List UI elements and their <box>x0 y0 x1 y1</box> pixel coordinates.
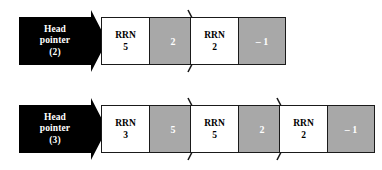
head-pointer-block: Head pointer (3) <box>19 105 107 153</box>
node-rrn-value: 5 <box>123 41 128 53</box>
node-data-cell: RRN 2 <box>191 18 238 64</box>
head-pointer-block: Head pointer (2) <box>19 17 107 65</box>
node-rrn-value: 3 <box>123 129 128 141</box>
node-field-label: RRN <box>115 117 136 129</box>
head-pointer-label: Head pointer (2) <box>19 17 91 65</box>
head-pointer-line3: (3) <box>49 135 60 147</box>
linked-list-diagram: Head pointer (2) RRN 5 2 RRN 2 <box>0 0 382 170</box>
node-body: RRN 2 – 1 <box>279 105 375 153</box>
node-link-cell: – 1 <box>327 106 374 152</box>
node-data-cell: RRN 5 <box>102 18 149 64</box>
node-field-label: RRN <box>204 117 225 129</box>
head-pointer-line2: pointer <box>40 123 70 135</box>
head-pointer-label: Head pointer (3) <box>19 105 91 153</box>
node-link-cell: – 1 <box>238 18 285 64</box>
node-data-cell: RRN 5 <box>191 106 238 152</box>
node-data-cell: RRN 3 <box>102 106 149 152</box>
node-field-label: RRN <box>204 29 225 41</box>
node-rrn-value: 2 <box>212 41 217 53</box>
node-body: RRN 2 – 1 <box>190 17 286 65</box>
head-pointer-line2: pointer <box>40 35 70 47</box>
list-row: Head pointer (3) RRN 3 5 <box>0 98 382 160</box>
node-field-label: RRN <box>293 117 314 129</box>
list-row: Head pointer (2) RRN 5 2 RRN 2 <box>0 10 382 72</box>
node-rrn-value: 2 <box>301 129 306 141</box>
node-rrn-value: 5 <box>212 129 217 141</box>
head-pointer-line1: Head <box>44 112 66 124</box>
head-pointer-line1: Head <box>44 24 66 36</box>
node-field-label: RRN <box>115 29 136 41</box>
head-pointer-line3: (2) <box>49 47 60 59</box>
node-data-cell: RRN 2 <box>280 106 327 152</box>
